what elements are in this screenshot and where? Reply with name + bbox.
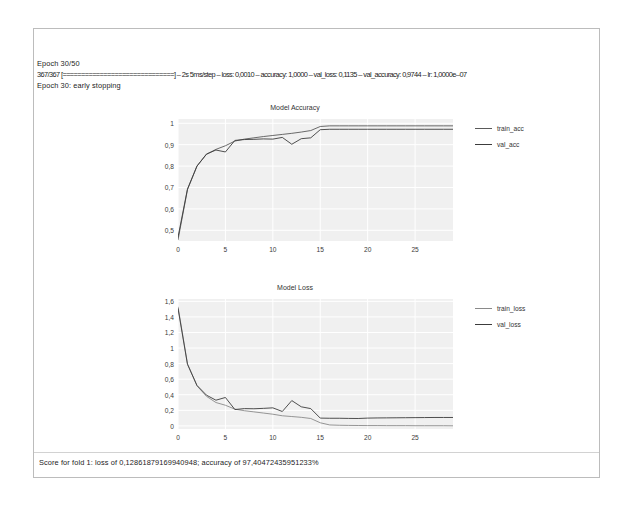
legend-item-val_acc: val_acc — [475, 136, 524, 152]
y-tick-label: 1 — [170, 345, 174, 352]
legend-item-val_loss: val_loss — [475, 316, 525, 332]
log-line-early-stopping: Epoch 30: early stopping — [37, 80, 597, 91]
notebook-output-page: 1 Epoch 30/50 367/367 [=================… — [0, 0, 632, 508]
x-tick-label: 5 — [224, 434, 228, 441]
legend-label: val_loss — [497, 321, 521, 328]
x-tick-label: 10 — [269, 246, 276, 253]
x-tick-label: 20 — [364, 246, 371, 253]
legend-swatch-icon — [475, 144, 492, 145]
x-tick-label: 10 — [269, 434, 276, 441]
y-tick-label: 1 — [170, 120, 174, 127]
legend-label: train_loss — [497, 305, 525, 312]
output-divider — [34, 452, 599, 453]
legend-accuracy: train_accval_acc — [475, 120, 524, 152]
x-tick-label: 20 — [364, 434, 371, 441]
accuracy-plot-svg — [178, 119, 453, 241]
y-tick-label: 0,2 — [165, 407, 174, 414]
x-tick-label: 15 — [317, 246, 324, 253]
log-line-progress: 367/367 [==============================]… — [37, 69, 597, 80]
legend-item-train_acc: train_acc — [475, 120, 524, 136]
legend-swatch-icon — [475, 324, 492, 325]
legend-item-train_loss: train_loss — [475, 300, 525, 316]
figure-model-loss: Model Loss 00,20,40,60,811,21,41,6 05101… — [130, 280, 590, 455]
loss-plot-svg — [178, 299, 453, 429]
y-tick-label: 0,9 — [165, 141, 174, 148]
y-axis-ticks-loss: 00,20,40,60,811,21,41,6 — [146, 299, 174, 429]
figure-model-accuracy: Model Accuracy 0,50,60,70,80,91 05101520… — [130, 100, 590, 270]
score-summary-text: Score for fold 1: loss of 0,128618791699… — [39, 458, 319, 467]
y-tick-label: 0 — [170, 422, 174, 429]
y-tick-label: 0,6 — [165, 376, 174, 383]
y-tick-label: 0,5 — [165, 227, 174, 234]
y-tick-label: 0,4 — [165, 391, 174, 398]
y-tick-label: 0,6 — [165, 205, 174, 212]
y-tick-label: 0,7 — [165, 184, 174, 191]
legend-loss: train_lossval_loss — [475, 300, 525, 332]
x-tick-label: 25 — [411, 246, 418, 253]
plot-area-accuracy — [178, 119, 453, 241]
y-tick-label: 0,8 — [165, 360, 174, 367]
stdout-log: Epoch 30/50 367/367 [===================… — [37, 58, 597, 91]
chart-title-accuracy: Model Accuracy — [130, 104, 460, 111]
x-tick-label: 25 — [411, 434, 418, 441]
legend-label: train_acc — [497, 125, 524, 132]
x-tick-label: 15 — [317, 434, 324, 441]
series-line-val_acc — [178, 129, 453, 237]
legend-label: val_acc — [497, 141, 519, 148]
y-axis-ticks-accuracy: 0,50,60,70,80,91 — [146, 119, 174, 241]
x-tick-label: 0 — [176, 246, 180, 253]
x-tick-label: 5 — [224, 246, 228, 253]
legend-swatch-icon — [475, 128, 492, 129]
chart-title-loss: Model Loss — [130, 284, 460, 291]
log-line-epoch: Epoch 30/50 — [37, 58, 597, 69]
y-tick-label: 1,2 — [165, 329, 174, 336]
legend-swatch-icon — [475, 308, 492, 309]
y-tick-label: 1,4 — [165, 313, 174, 320]
y-tick-label: 0,8 — [165, 163, 174, 170]
series-line-train_acc — [178, 126, 453, 240]
series-line-train_loss — [178, 307, 453, 426]
plot-area-loss — [178, 299, 453, 429]
y-tick-label: 1,6 — [165, 298, 174, 305]
x-tick-label: 0 — [176, 434, 180, 441]
